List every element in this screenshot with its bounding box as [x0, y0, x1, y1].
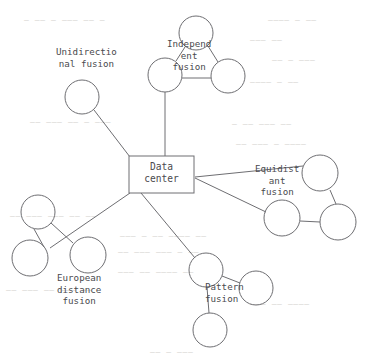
node-equidistant-right[interactable] [320, 204, 356, 240]
edge-equidistant-left-right [300, 221, 320, 222]
edge-hub-to-pattern [141, 193, 195, 258]
label-equidistant-fusion-line3: fusion [261, 186, 294, 197]
edge-equidistant-top-right [330, 190, 336, 204]
label-equidistant-fusion-line1: Equidist [255, 163, 299, 174]
label-pattern-fusion-line1: Pattern [205, 281, 244, 292]
label-equidistant-fusion: Equidistantfusion [255, 163, 299, 198]
node-european-lower[interactable] [12, 240, 48, 276]
label-european-distance-fusion-line2: distance [57, 284, 101, 295]
label-equidistant-fusion-line2: ant [269, 175, 286, 186]
node-pattern-bottom[interactable] [193, 313, 227, 347]
edge-european-upper-lower [34, 229, 44, 247]
node-european-right[interactable] [70, 237, 106, 273]
node-equidistant-left[interactable] [264, 200, 300, 236]
label-pattern-fusion-line2: fusion [205, 293, 238, 304]
node-equidistant-top[interactable] [302, 155, 338, 191]
node-independent-right[interactable] [211, 59, 245, 93]
data-center-label: Datacenter [129, 161, 194, 186]
edge-hub-to-european [50, 193, 130, 248]
data-center-label-line2: center [144, 173, 179, 184]
label-independent-fusion: Independentfusion [167, 38, 211, 73]
label-european-distance-fusion-line1: European [57, 272, 101, 283]
edge-hub-to-unidirectional [94, 110, 130, 157]
label-unidirectional-fusion: Unidirectional fusion [56, 46, 117, 69]
node-unidirectional-n1[interactable] [65, 80, 99, 114]
node-pattern-right[interactable] [239, 271, 273, 305]
label-pattern-fusion: Patternfusion [205, 281, 244, 304]
label-european-distance-fusion-line3: fusion [63, 295, 96, 306]
label-independent-fusion-line3: fusion [173, 61, 206, 72]
label-unidirectional-fusion-line1: Unidirectio [56, 46, 117, 57]
label-european-distance-fusion: Europeandistancefusion [57, 272, 101, 307]
data-center-label-line1: Data [150, 161, 173, 172]
label-unidirectional-fusion-line2: nal fusion [59, 58, 114, 69]
label-independent-fusion-line1: Independ [167, 38, 211, 49]
node-european-upper[interactable] [21, 195, 55, 229]
diagram-canvas: — —— — ——— —— ————— — ————— ———— — —————… [0, 0, 370, 361]
label-independent-fusion-line2: ent [181, 50, 198, 61]
